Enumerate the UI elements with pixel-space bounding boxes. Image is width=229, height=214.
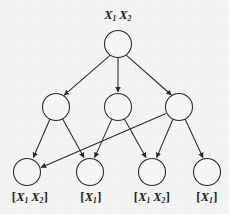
label-root: X1X2 (104, 8, 132, 23)
edge-middle-center-to-leaf-3 (124, 119, 146, 158)
node-leaf-3[interactable] (139, 159, 166, 186)
edge-root-to-middle-left (64, 55, 110, 95)
edge-middle-left-to-leaf-1 (33, 119, 50, 158)
label-leaf-2: [X1] (80, 190, 101, 205)
edge-middle-right-to-leaf-4 (185, 119, 203, 158)
edge-middle-left-to-leaf-2 (63, 119, 85, 158)
label-leaf-3: [X1X2] (134, 190, 170, 205)
diagram-canvas: X1X2 [X1X2] [X1] [X1X2] [X1] (0, 0, 229, 214)
label-leaf-4: [X1] (196, 190, 217, 205)
label-leaf-1: [X1X2] (12, 190, 48, 205)
node-leaf-2[interactable] (77, 159, 104, 186)
node-middle-center[interactable] (105, 94, 132, 121)
node-leaf-1[interactable] (14, 159, 41, 186)
graph-svg (0, 0, 229, 214)
node-leaf-4[interactable] (194, 159, 221, 186)
node-root[interactable] (105, 31, 132, 58)
node-middle-left[interactable] (43, 94, 70, 121)
edge-middle-right-to-leaf-3 (157, 119, 173, 158)
node-middle-right[interactable] (166, 94, 193, 121)
edge-root-to-middle-right (126, 55, 171, 95)
